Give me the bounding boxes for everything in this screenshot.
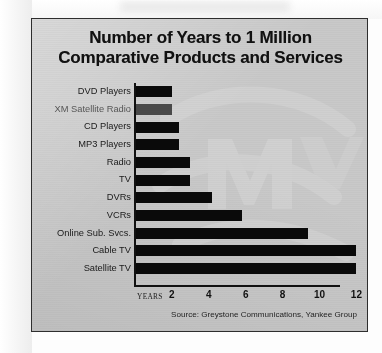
- x-tick-label: 6: [243, 289, 249, 300]
- x-axis-title: YEARS: [137, 292, 163, 301]
- bar-row: Radio: [32, 154, 368, 172]
- bar-row: XM Satellite Radio: [32, 101, 368, 119]
- bar-category-label: Satellite TV: [31, 260, 131, 278]
- chart-panel: Number of Years to 1 Million Comparative…: [31, 18, 368, 332]
- bar-category-label: CD Players: [31, 118, 131, 136]
- bar: [135, 157, 190, 168]
- bar-category-label: VCRs: [31, 207, 131, 225]
- newsprint-page: © PR NEWSFOTO/XM SATELLITE RADIO Number …: [0, 0, 382, 353]
- page-top-smudge: [120, 1, 290, 13]
- x-axis-ticks: YEARS 24681012: [32, 289, 368, 305]
- bar-category-label: DVD Players: [31, 83, 131, 101]
- source-note: Source: Greystone Communications, Yankee…: [171, 310, 357, 319]
- page-left-margin: [0, 0, 32, 353]
- bar-row: CD Players: [32, 118, 368, 136]
- bar: [135, 122, 179, 133]
- x-tick-label: 12: [351, 289, 362, 300]
- bar-row: TV: [32, 171, 368, 189]
- bar-row: DVRs: [32, 189, 368, 207]
- bar-row: VCRs: [32, 207, 368, 225]
- chart-title: Number of Years to 1 Million Comparative…: [32, 28, 368, 68]
- x-tick-label: 8: [280, 289, 286, 300]
- bar: [135, 210, 242, 221]
- plot-area: DVD PlayersXM Satellite RadioCD PlayersM…: [32, 83, 368, 288]
- y-axis-line: [134, 83, 136, 285]
- bar: [135, 228, 308, 239]
- bar: [135, 192, 212, 203]
- bar-row: Cable TV: [32, 242, 368, 260]
- bar-category-label: MP3 Players: [31, 136, 131, 154]
- bar: [135, 139, 179, 150]
- x-axis-line: [134, 285, 340, 287]
- x-tick-label: 2: [169, 289, 175, 300]
- bar: [135, 104, 172, 115]
- bar-row: Online Sub. Svcs.: [32, 225, 368, 243]
- bar-category-label: Online Sub. Svcs.: [31, 225, 131, 243]
- bar-category-label: Radio: [31, 154, 131, 172]
- bar: [135, 175, 190, 186]
- bar-row: DVD Players: [32, 83, 368, 101]
- bar: [135, 263, 356, 274]
- bar-category-label: XM Satellite Radio: [31, 101, 131, 119]
- x-tick-label: 4: [206, 289, 212, 300]
- bar-category-label: TV: [31, 171, 131, 189]
- bar-row: MP3 Players: [32, 136, 368, 154]
- chart-title-line-1: Number of Years to 1 Million: [32, 28, 368, 48]
- bar: [135, 86, 172, 97]
- bar: [135, 245, 356, 256]
- bar-category-label: DVRs: [31, 189, 131, 207]
- chart-title-line-2: Comparative Products and Services: [32, 48, 368, 68]
- bar-row: Satellite TV: [32, 260, 368, 278]
- x-tick-label: 10: [314, 289, 325, 300]
- bar-category-label: Cable TV: [31, 242, 131, 260]
